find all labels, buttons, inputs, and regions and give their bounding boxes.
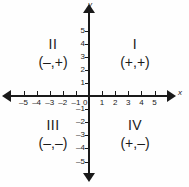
y-tick-mark [85, 44, 90, 45]
x-tick-mark [115, 91, 116, 96]
y-axis-down-arrowhead-icon [83, 173, 95, 182]
quadrant-3-signs: (–,–) [22, 134, 84, 152]
x-axis-label: x [178, 88, 182, 97]
y-axis-label: y [88, 0, 92, 9]
y-tick-mark [85, 70, 90, 71]
quadrant-2-numeral: II [22, 36, 84, 53]
x-tick-mark [102, 91, 103, 96]
x-tick-mark [50, 91, 51, 96]
x-tick-mark [24, 91, 25, 96]
x-tick-label: –2 [56, 98, 70, 107]
quadrant-3-numeral: III [22, 117, 84, 134]
y-tick-mark [85, 148, 90, 149]
coordinate-plane-diagram: x y –5–4–3–2–112345 54321–1–2–3–4–5 0 II… [0, 0, 189, 187]
x-axis-left-arrowhead-icon [2, 90, 11, 102]
origin-label: 0 [83, 98, 87, 107]
x-tick-label: 3 [121, 98, 135, 107]
quadrant-1: I (+,+) [104, 36, 166, 71]
x-tick-mark [76, 91, 77, 96]
quadrant-4-signs: (+,–) [104, 134, 166, 152]
quadrant-1-signs: (+,+) [104, 53, 166, 71]
x-tick-label: 2 [108, 98, 122, 107]
y-tick-mark [85, 109, 90, 110]
y-tick-mark [85, 57, 90, 58]
x-tick-mark [37, 91, 38, 96]
quadrant-1-numeral: I [104, 36, 166, 53]
y-tick-mark [85, 122, 90, 123]
x-tick-label: 5 [148, 98, 162, 107]
y-tick-mark [85, 135, 90, 136]
quadrant-2-signs: (–,+) [22, 53, 84, 71]
quadrant-4-numeral: IV [104, 117, 166, 134]
y-axis-line [88, 12, 90, 176]
quadrant-2: II (–,+) [22, 36, 84, 71]
y-tick-label: 1 [70, 78, 85, 87]
x-tick-mark [63, 91, 64, 96]
x-tick-label: 4 [134, 98, 148, 107]
x-tick-label: –4 [30, 98, 44, 107]
y-tick-mark [85, 83, 90, 84]
x-tick-mark [155, 91, 156, 96]
y-tick-label: 5 [70, 26, 85, 35]
quadrant-4: IV (+,–) [104, 117, 166, 152]
x-tick-mark [128, 91, 129, 96]
x-tick-label: –3 [43, 98, 57, 107]
x-tick-label: 1 [95, 98, 109, 107]
x-axis-right-arrowhead-icon [167, 90, 176, 102]
y-tick-label: –5 [70, 157, 85, 166]
x-tick-label: –5 [17, 98, 31, 107]
x-tick-mark [141, 91, 142, 96]
y-tick-mark [85, 162, 90, 163]
y-tick-mark [85, 31, 90, 32]
quadrant-3: III (–,–) [22, 117, 84, 152]
